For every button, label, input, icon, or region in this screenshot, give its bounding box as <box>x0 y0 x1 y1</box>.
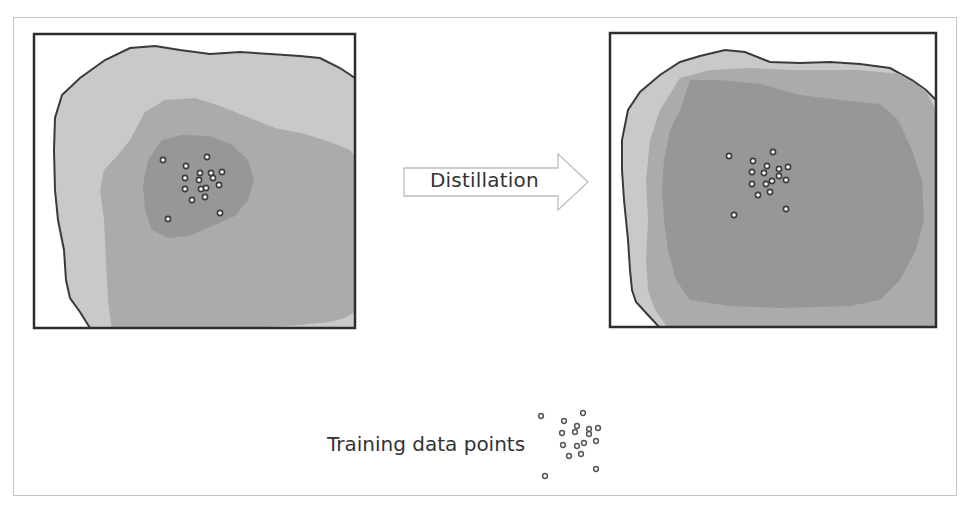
training-point <box>210 175 215 180</box>
training-point <box>594 467 599 472</box>
training-point <box>202 194 207 199</box>
distillation-label: Distillation <box>430 168 539 192</box>
training-point <box>594 439 599 444</box>
training-point <box>581 411 586 416</box>
training-point <box>731 212 736 217</box>
training-point <box>785 164 790 169</box>
training-point <box>587 432 592 437</box>
training-point <box>770 149 775 154</box>
training-point <box>543 474 548 479</box>
training-point <box>189 197 194 202</box>
training-point <box>750 158 755 163</box>
training-point <box>562 419 567 424</box>
training-point <box>776 166 781 171</box>
training-point <box>575 424 580 429</box>
legend-points <box>539 411 601 479</box>
inner-region <box>662 80 924 308</box>
student-regions <box>622 50 936 328</box>
distillation-arrow: Distillation <box>400 152 592 212</box>
training-point <box>183 163 188 168</box>
training-point <box>165 216 170 221</box>
training-point <box>203 185 208 190</box>
training-point <box>587 427 592 432</box>
training-point <box>582 441 587 446</box>
training-point <box>776 173 781 178</box>
training-point <box>761 170 766 175</box>
training-point <box>560 431 565 436</box>
training-point <box>196 177 201 182</box>
training-point <box>197 170 202 175</box>
training-point <box>783 177 788 182</box>
training-point <box>579 452 584 457</box>
training-point <box>749 169 754 174</box>
training-point <box>573 430 578 435</box>
training-point <box>767 189 772 194</box>
training-point <box>567 454 572 459</box>
training-point <box>763 181 768 186</box>
training-point <box>216 182 221 187</box>
training-point <box>596 426 601 431</box>
training-point <box>561 443 566 448</box>
training-point <box>204 154 209 159</box>
training-point <box>217 210 222 215</box>
training-point <box>749 181 754 186</box>
training-point <box>539 414 544 419</box>
training-point <box>182 186 187 191</box>
legend-label: Training data points <box>327 432 525 456</box>
training-point <box>160 157 165 162</box>
training-point <box>182 175 187 180</box>
teacher-decision-regions <box>0 0 970 505</box>
training-point <box>769 178 774 183</box>
training-point <box>755 192 760 197</box>
training-point <box>764 163 769 168</box>
training-point <box>726 153 731 158</box>
training-point <box>783 206 788 211</box>
training-point <box>219 169 224 174</box>
training-point <box>575 444 580 449</box>
